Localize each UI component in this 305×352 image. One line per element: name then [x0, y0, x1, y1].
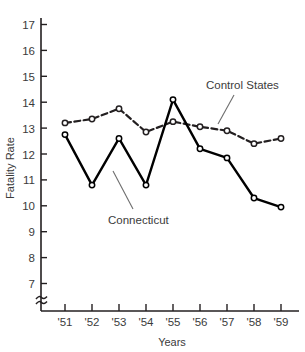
- data-point-marker: [143, 182, 148, 187]
- y-tick-label: 11: [23, 174, 35, 186]
- data-point-marker: [251, 141, 256, 146]
- data-point-marker: [116, 106, 121, 111]
- data-point-marker: [62, 132, 67, 137]
- x-tick-label: '57: [220, 316, 235, 328]
- x-tick-label: '52: [85, 316, 100, 328]
- y-axis-title: Fatality Rate: [4, 137, 16, 199]
- y-tick-label: 7: [29, 278, 35, 290]
- data-point-marker: [278, 204, 283, 209]
- y-tick-label: 16: [22, 45, 35, 57]
- x-tick-label: '58: [247, 316, 262, 328]
- x-axis-title: Years: [158, 336, 186, 348]
- x-tick-label: '56: [193, 316, 208, 328]
- x-tick-label: '54: [139, 316, 155, 328]
- data-point-marker: [62, 120, 67, 125]
- x-tick-label: '51: [58, 316, 73, 328]
- y-tick-label: 14: [22, 97, 35, 109]
- connecticut-annotation-label: Connecticut: [108, 214, 170, 226]
- data-point-marker: [224, 128, 229, 133]
- data-point-marker: [89, 182, 94, 187]
- y-tick-label: 15: [22, 71, 35, 83]
- control-states-annotation-label: Control States: [206, 79, 279, 91]
- fatality-rate-line-chart: 17 16 15 14 13 12 11 10 9 8 7: [0, 0, 305, 352]
- data-point-marker: [170, 119, 175, 124]
- y-tick-label: 9: [29, 226, 35, 238]
- data-point-marker: [224, 155, 229, 160]
- x-tick-label: '59: [274, 316, 289, 328]
- y-tick-label: 13: [22, 123, 35, 135]
- data-point-marker: [251, 195, 256, 200]
- y-tick-label: 8: [29, 252, 35, 264]
- data-point-marker: [89, 116, 94, 121]
- x-tick-label: '53: [112, 316, 127, 328]
- x-tick-label: '55: [166, 316, 181, 328]
- y-tick-label: 10: [22, 200, 35, 212]
- data-point-marker: [278, 136, 283, 141]
- y-tick-label: 12: [22, 149, 35, 161]
- data-point-marker: [170, 97, 175, 102]
- chart-background: [0, 0, 305, 352]
- x-axis-tick-labels: '51 '52 '53 '54 '55 '56 '57 '58 '59: [58, 316, 289, 328]
- data-point-marker: [143, 129, 148, 134]
- data-point-marker: [197, 124, 202, 129]
- data-point-marker: [116, 136, 121, 141]
- data-point-marker: [197, 146, 202, 151]
- y-tick-label: 17: [22, 19, 35, 31]
- chart-canvas: 17 16 15 14 13 12 11 10 9 8 7: [0, 0, 305, 352]
